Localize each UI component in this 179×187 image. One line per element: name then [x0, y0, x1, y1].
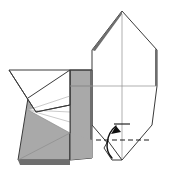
right-edge-thickness — [155, 49, 157, 86]
origami-diagram-root — [0, 0, 179, 187]
left-bottom-paper-edge — [18, 160, 70, 165]
origami-illustration — [0, 0, 179, 187]
right-main-body-fill — [92, 11, 157, 160]
